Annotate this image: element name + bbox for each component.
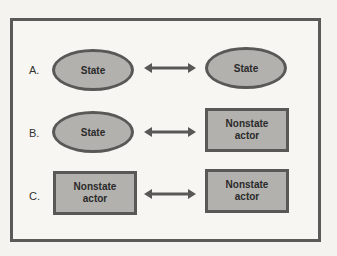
row-label-b: B.: [29, 127, 39, 139]
nonstate-actor-box-b-right: Nonstate actor: [205, 108, 289, 152]
nonstate-actor-box-c-left: Nonstate actor: [53, 171, 137, 215]
state-ellipse-a-right: State: [205, 47, 287, 89]
row-label-a: A.: [29, 64, 39, 76]
row-label-c: C.: [29, 190, 40, 202]
nonstate-actor-box-c-right: Nonstate actor: [205, 169, 289, 213]
bidirectional-arrow-icon: [144, 189, 196, 199]
state-ellipse-b-left: State: [52, 111, 134, 153]
bidirectional-arrow-icon: [144, 63, 196, 73]
state-ellipse-a-left: State: [52, 49, 134, 91]
bidirectional-arrow-icon: [144, 127, 196, 137]
